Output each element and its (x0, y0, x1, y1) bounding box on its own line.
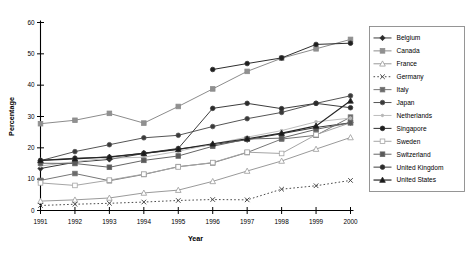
data-point-x (176, 198, 181, 203)
marker-plus-box (349, 117, 351, 119)
x-tick-label: 1991 (33, 218, 48, 225)
marker-circle (348, 105, 353, 110)
legend-label: United States (397, 176, 437, 183)
marker-square (38, 121, 43, 126)
marker-square (314, 132, 319, 137)
legend-label: Netherlands (397, 112, 433, 119)
marker-circle (176, 133, 181, 138)
x-tick-label: 1996 (206, 218, 221, 225)
data-point-x (314, 183, 319, 188)
marker-x (107, 201, 112, 206)
data-point-square-open (142, 172, 147, 177)
data-point-circle (210, 124, 215, 129)
x-tick-label: 2000 (343, 218, 358, 225)
legend-item-united-states[interactable]: United States (374, 176, 437, 183)
marker-square (176, 165, 181, 170)
data-point-circle (314, 42, 319, 47)
marker-square (142, 172, 147, 177)
marker-circle (314, 101, 319, 106)
marker-square (176, 154, 181, 159)
marker-triangle (348, 135, 354, 140)
marker-square (107, 178, 112, 183)
x-tick-label: 1994 (137, 218, 152, 225)
series-line (41, 39, 351, 123)
marker-circle (210, 106, 215, 111)
chart-canvas: 0102030405060199119921993199419951996199… (0, 0, 469, 255)
data-point-circle (107, 142, 112, 147)
marker-square (210, 160, 215, 165)
marker-x (73, 202, 78, 207)
data-point-circle (245, 101, 250, 106)
data-point-triangle-open (348, 135, 354, 140)
data-point-square-open (38, 181, 43, 186)
data-point-square (176, 104, 181, 109)
marker-triangle (348, 98, 354, 103)
legend-label: United Kingdom (397, 164, 444, 172)
data-point-square (73, 161, 78, 166)
series-line (41, 180, 351, 205)
marker-circle (210, 67, 215, 72)
series-line (41, 103, 351, 160)
data-point-plus-small (349, 116, 352, 119)
series-netherlands (39, 116, 352, 167)
data-point-circle (73, 149, 78, 154)
y-tick-label: 20 (27, 144, 35, 151)
series-germany (38, 178, 353, 208)
legend-item-sweden[interactable]: Sweden (374, 138, 421, 145)
marker-circle (380, 126, 385, 131)
marker-circle (380, 165, 385, 170)
y-tick-label: 40 (27, 81, 35, 88)
marker-circle (210, 124, 215, 129)
data-point-square (314, 47, 319, 52)
y-axis-title: Percentage (7, 97, 16, 136)
data-point-circle (348, 41, 353, 46)
marker-x (210, 197, 215, 202)
marker-circle (245, 101, 250, 106)
marker-x (348, 178, 353, 183)
data-point-x (107, 201, 112, 206)
data-point-square (348, 120, 353, 125)
marker-circle (279, 106, 284, 111)
marker-circle (245, 116, 250, 121)
marker-square (73, 161, 78, 166)
data-point-square (176, 154, 181, 159)
data-point-circle (245, 61, 250, 66)
data-point-square (380, 152, 385, 157)
data-point-circle (380, 126, 385, 131)
legend-label: Switzerland (397, 151, 431, 158)
series-line (41, 118, 351, 166)
marker-square (107, 165, 112, 170)
y-tick-label: 0 (31, 207, 35, 214)
marker-square (279, 151, 284, 156)
data-point-circle (142, 136, 147, 141)
data-point-square-open (73, 183, 78, 188)
marker-square (210, 87, 215, 92)
marker-square (142, 158, 147, 163)
data-point-x (73, 202, 78, 207)
data-point-circle (279, 106, 284, 111)
x-tick-label: 1993 (102, 218, 117, 225)
marker-square (380, 49, 385, 54)
data-point-square (142, 121, 147, 126)
data-point-x (245, 198, 250, 203)
legend-label: Belgium (397, 34, 421, 42)
data-point-square-open (245, 150, 250, 155)
legend-item-switzerland[interactable]: Switzerland (374, 151, 431, 158)
data-point-circle (210, 106, 215, 111)
legend-item-canada[interactable]: Canada (374, 47, 420, 54)
x-tick-label: 1992 (68, 218, 83, 225)
data-point-square (73, 118, 78, 123)
marker-square (38, 181, 43, 186)
x-tick-label: 1995 (171, 218, 186, 225)
data-point-square (38, 121, 43, 126)
data-point-circle (314, 101, 319, 106)
data-point-square (73, 171, 78, 176)
marker-x (245, 198, 250, 203)
series-france (38, 135, 354, 204)
data-point-square (380, 87, 385, 92)
marker-square (314, 47, 319, 52)
data-point-square (107, 165, 112, 170)
data-point-circle (348, 105, 353, 110)
data-point-circle (245, 116, 250, 121)
marker-square (380, 87, 385, 92)
